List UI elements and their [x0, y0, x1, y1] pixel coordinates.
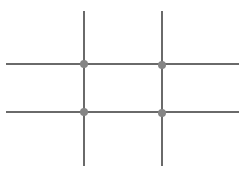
intersection-point-3: [80, 108, 88, 116]
intersection-point-2: [158, 61, 166, 69]
intersection-point-4: [158, 109, 166, 117]
rule-of-thirds-grid: [0, 0, 247, 174]
intersection-point-1: [80, 60, 88, 68]
